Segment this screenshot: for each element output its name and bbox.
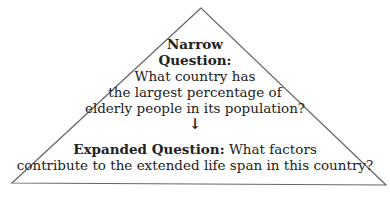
narrow-question-line: What country has [0,68,390,84]
expanded-label: Expanded Question: [73,141,224,157]
down-arrow-icon: ↓ [0,116,390,132]
narrow-label-line2: Question: [0,52,390,68]
expanded-question-line1: Expanded Question: What factors [0,141,390,157]
narrow-label-line1: Narrow [0,36,390,52]
narrow-question-line: the largest percentage of [0,84,390,100]
expanded-question-line2: contribute to the extended life span in … [0,157,390,173]
narrow-question-line: elderly people in its population? [0,100,390,116]
expanded-text: What factors [225,141,317,157]
